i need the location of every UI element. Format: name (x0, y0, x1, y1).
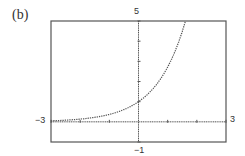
y-min-label: −1 (134, 145, 144, 155)
x-min-label: −3 (35, 115, 45, 125)
exponential-curve (51, 21, 185, 121)
graph-plot (0, 0, 245, 156)
y-max-label: 5 (134, 6, 139, 16)
x-max-label: 3 (230, 114, 235, 124)
axes (51, 21, 226, 142)
